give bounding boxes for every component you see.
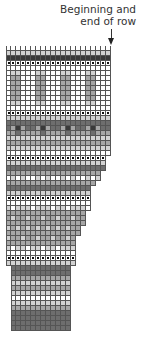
chart-cell <box>96 176 101 181</box>
chart-cell <box>81 221 86 226</box>
chart-cell <box>91 181 96 186</box>
chart-cell <box>101 166 106 171</box>
annotation-line-2: end of row <box>46 15 136 27</box>
chart-cell <box>71 261 76 266</box>
chart-cell <box>66 326 71 331</box>
chart-row <box>11 326 71 331</box>
chart-cell <box>106 151 111 156</box>
chart-cell <box>86 206 91 211</box>
annotation-label: Beginning and end of row <box>46 3 136 27</box>
arrow-down-icon <box>108 38 114 45</box>
chart-cell <box>76 231 81 236</box>
annotation-line-1: Beginning and <box>46 3 136 15</box>
